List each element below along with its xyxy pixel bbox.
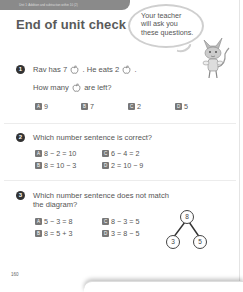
question-text: .	[134, 65, 136, 74]
option-letter-badge: B	[81, 103, 88, 110]
option-2a[interactable]: A8 − 2 = 10	[35, 149, 76, 158]
option-1c[interactable]: C2	[128, 102, 141, 111]
option-text: 8 = 5 + 3	[44, 229, 72, 238]
question-2-text: Which number sentence is correct?	[33, 133, 152, 142]
option-letter-badge: A	[35, 150, 42, 157]
apple-icon	[70, 65, 79, 74]
option-2c[interactable]: C6 − 4 = 2	[102, 149, 139, 158]
option-text: 2 = 10 − 9	[111, 161, 143, 170]
question-text: . He eats 2	[82, 65, 119, 74]
workbook-page: Unit 1: Addition and subtraction within …	[0, 0, 240, 285]
option-2b[interactable]: B8 = 10 − 3	[35, 161, 76, 170]
option-text: 2	[137, 102, 141, 111]
option-letter-badge: A	[35, 218, 42, 225]
question-number-2: 2	[16, 133, 25, 142]
option-text: 8 − 3 = 5	[111, 217, 139, 226]
section-divider	[4, 180, 236, 181]
option-text: 3 = 8 − 5	[111, 229, 139, 238]
option-text: 6 − 4 = 2	[111, 149, 139, 158]
option-1a[interactable]: A9	[35, 102, 48, 111]
option-letter-badge: A	[35, 103, 42, 110]
question-1-line-2: How many are left?	[33, 83, 112, 92]
option-text: 9	[44, 102, 48, 111]
option-3b[interactable]: B8 = 5 + 3	[35, 229, 72, 238]
option-letter-badge: D	[102, 230, 109, 237]
diagram-part-node: 3	[166, 235, 180, 249]
bubble-line: these questions.	[141, 29, 201, 37]
option-text: 8 = 10 − 3	[44, 161, 76, 170]
option-3c[interactable]: C8 − 3 = 5	[102, 217, 139, 226]
question-3-line-2: the diagram?	[33, 200, 77, 209]
option-3d[interactable]: D3 = 8 − 5	[102, 229, 139, 238]
cat-mascot-icon	[198, 34, 230, 86]
next-page-edge	[84, 281, 243, 292]
option-text: 8 − 2 = 10	[44, 149, 76, 158]
speech-bubble-tail	[176, 40, 191, 55]
page-number: 160	[11, 272, 19, 277]
speech-bubble-text: Your teacher will ask you these question…	[141, 12, 201, 37]
option-3a[interactable]: A5 − 3 = 8	[35, 217, 72, 226]
option-letter-badge: C	[102, 150, 109, 157]
option-letter-badge: C	[102, 218, 109, 225]
option-text: 7	[90, 102, 94, 111]
unit-header: Unit 1: Addition and subtraction within …	[0, 0, 130, 10]
option-2d[interactable]: D2 = 10 − 9	[102, 161, 143, 170]
option-letter-badge: D	[102, 162, 109, 169]
question-text: How many	[33, 83, 69, 92]
diagram-whole-node: 8	[180, 210, 194, 224]
option-letter-badge: B	[35, 162, 42, 169]
question-number-1: 1	[16, 65, 25, 74]
option-letter-badge: D	[175, 103, 182, 110]
question-text: Rav has 7	[33, 65, 67, 74]
option-1d[interactable]: D5	[175, 102, 188, 111]
option-letter-badge: B	[35, 230, 42, 237]
apple-icon	[72, 83, 81, 92]
diagram-part-node: 5	[193, 235, 207, 249]
option-letter-badge: C	[128, 103, 135, 110]
question-3-line-1: Which number sentence does not match	[33, 191, 169, 200]
apple-icon	[122, 65, 131, 74]
question-text: are left?	[84, 83, 111, 92]
page-title: End of unit check	[16, 17, 126, 32]
question-1-line-1: Rav has 7 . He eats 2 .	[33, 65, 137, 74]
question-number-3: 3	[16, 191, 25, 200]
option-text: 5 − 3 = 8	[44, 217, 72, 226]
option-1b[interactable]: B7	[81, 102, 94, 111]
option-text: 5	[184, 102, 188, 111]
section-divider	[4, 123, 236, 124]
